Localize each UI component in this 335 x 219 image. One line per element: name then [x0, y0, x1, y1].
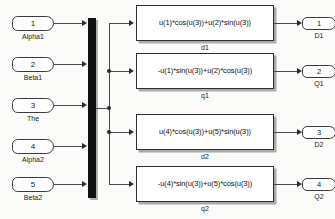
arrow-input-1 [82, 20, 87, 26]
input-port-1[interactable]: 1 [12, 16, 54, 31]
output-port-2[interactable]: 2 [302, 65, 335, 78]
fcn-block-d1[interactable]: u(1)*cos(u(3))+u(2)*sin(u(3)) [136, 5, 274, 41]
input-port-4[interactable]: 4 [12, 139, 54, 154]
wire-input-2-to-mux [54, 64, 85, 65]
wire-input-1-to-mux [54, 23, 85, 24]
arrow-input-4 [82, 143, 87, 149]
arrow-fcn-4-input [129, 181, 134, 187]
output-port-3-number: 3 [317, 129, 321, 137]
fcn-block-q2-expression: -u(4)*sin(u(3))+u(5)*cos(u(3)) [158, 180, 252, 188]
junction-fcn-2 [107, 69, 111, 73]
output-port-3[interactable]: 3 [302, 126, 335, 139]
block-diagram-canvas: 1 Alpha1 2 Beta1 3 The 4 Alpha2 5 Beta2 [0, 0, 335, 219]
arrow-input-3 [82, 102, 87, 108]
input-port-5-number: 5 [31, 181, 35, 189]
output-port-2-label: Q1 [302, 80, 335, 87]
output-port-4[interactable]: 4 [302, 178, 335, 191]
input-port-2-label: Beta1 [12, 74, 54, 81]
fcn-block-d2-label: d2 [136, 153, 274, 160]
input-port-2[interactable]: 2 [12, 57, 54, 72]
wire-branch-to-fcn-3 [109, 132, 131, 133]
input-port-3[interactable]: 3 [12, 98, 54, 113]
arrow-fcn-2-input [129, 68, 134, 74]
input-port-3-label: The [12, 115, 54, 122]
arrow-fcn-3-input [129, 129, 134, 135]
output-port-4-number: 4 [317, 181, 321, 189]
input-port-2-number: 2 [31, 61, 35, 69]
fcn-block-q1[interactable]: -u(1)*sin(u(3))+u(2)*cos(u(3)) [136, 53, 274, 89]
output-port-1-number: 1 [317, 20, 321, 28]
output-port-3-label: D2 [302, 141, 335, 148]
input-port-5-label: Beta2 [12, 194, 54, 201]
fcn-block-q1-expression: -u(1)*sin(u(3))+u(2)*cos(u(3)) [158, 67, 252, 75]
arrow-fcn-1-input [129, 20, 134, 26]
wire-branch-bus [109, 23, 110, 185]
input-port-1-number: 1 [31, 20, 35, 28]
fcn-block-q1-label: q1 [136, 92, 274, 99]
arrow-input-2 [82, 61, 87, 67]
input-port-5[interactable]: 5 [12, 177, 54, 192]
fcn-block-d1-expression: u(1)*cos(u(3))+u(2)*sin(u(3)) [159, 19, 251, 27]
wire-branch-to-fcn-2 [109, 71, 131, 72]
wire-branch-to-fcn-1 [109, 23, 131, 24]
fcn-block-d1-label: d1 [136, 44, 274, 51]
input-port-4-label: Alpha2 [12, 156, 54, 163]
input-port-4-number: 4 [31, 143, 35, 151]
wire-input-4-to-mux [54, 146, 85, 147]
fcn-block-d2-expression: u(4)*cos(u(3))+u(5)*sin(u(3)) [159, 128, 251, 136]
input-port-3-number: 3 [31, 102, 35, 110]
fcn-block-q2-label: q2 [136, 205, 274, 212]
output-port-1-label: D1 [302, 32, 335, 39]
input-port-1-label: Alpha1 [12, 33, 54, 40]
fcn-block-d2[interactable]: u(4)*cos(u(3))+u(5)*sin(u(3)) [136, 114, 274, 150]
junction-fcn-3 [107, 130, 111, 134]
output-port-1[interactable]: 1 [302, 17, 335, 30]
arrow-input-5 [82, 181, 87, 187]
wire-input-5-to-mux [54, 184, 85, 185]
output-port-4-label: Q2 [302, 193, 335, 200]
wire-input-3-to-mux [54, 105, 85, 106]
mux-block[interactable] [88, 18, 96, 198]
output-port-2-number: 2 [317, 68, 321, 76]
wire-branch-to-fcn-4 [109, 184, 131, 185]
fcn-block-q2[interactable]: -u(4)*sin(u(3))+u(5)*cos(u(3)) [136, 166, 274, 202]
junction-mux-output [107, 106, 111, 110]
